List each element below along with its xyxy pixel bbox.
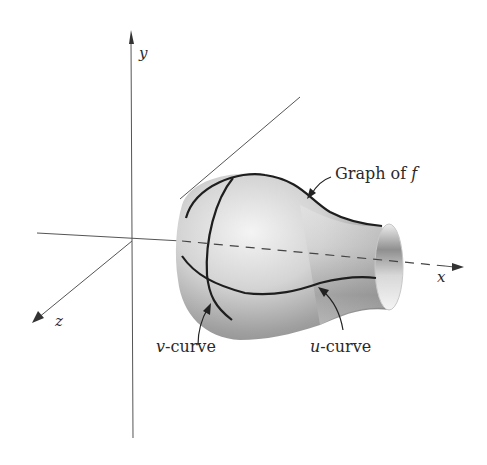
surface-of-revolution [176, 174, 403, 340]
surface-of-revolution-figure: y x z Graph of f v-curve u-curve [0, 0, 487, 465]
u-curve-label: u-curve [310, 337, 371, 356]
x-axis-label: x [437, 268, 445, 286]
figure-drawing [0, 0, 487, 465]
arrowhead-icon [129, 30, 134, 44]
graph-of-f-label: Graph of f [335, 164, 417, 183]
arrowhead-icon [452, 263, 464, 271]
arrowhead-icon [32, 311, 44, 323]
y-axis [129, 30, 134, 438]
v-curve-label: v-curve [156, 337, 216, 356]
z-axis-label: z [55, 312, 63, 330]
graph-of-f-pointer [307, 177, 331, 199]
y-axis-label: y [139, 44, 147, 62]
